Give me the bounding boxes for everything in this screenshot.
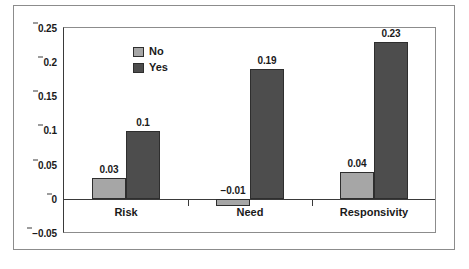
y-axis-tick-1: 0.2	[43, 57, 64, 68]
y-axis-tick-mark	[33, 160, 38, 161]
bar-value-responsivity-yes: 0.23	[381, 28, 400, 39]
bar-need-no[interactable]	[216, 199, 250, 206]
bar-responsivity-yes[interactable]	[374, 42, 408, 199]
bar-risk-yes[interactable]	[126, 131, 160, 199]
y-axis-tick-5: 0	[52, 194, 64, 205]
category-label-responsivity: Responsivity	[340, 206, 408, 218]
y-axis-tick-mark	[33, 91, 38, 92]
y-axis-tick-mark	[38, 125, 43, 126]
figure: 0.25 0.2 0.15 0.1 0.05 0 −0.05	[0, 0, 469, 269]
y-axis-tick-4: 0.05	[38, 160, 64, 171]
bar-value-risk-no: 0.03	[99, 164, 118, 175]
bar-value-need-yes: 0.19	[257, 55, 276, 66]
y-axis-tick-label: 0.2	[43, 57, 57, 68]
y-axis-tick-2: 0.15	[38, 91, 64, 102]
y-axis-tick-3: 0.1	[43, 125, 64, 136]
y-axis-tick-6: −0.05	[32, 228, 64, 239]
category-label-need: Need	[237, 206, 264, 218]
x-axis-separator-tick	[188, 199, 189, 206]
y-axis-tick-mark	[33, 23, 38, 24]
legend-item-yes: Yes	[133, 61, 168, 74]
legend-item-no: No	[133, 45, 168, 58]
y-axis-tick-mark	[27, 228, 32, 229]
y-axis-tick-0: 0.25	[38, 23, 64, 34]
legend: No Yes	[133, 45, 168, 77]
y-axis-tick-label: 0.05	[38, 160, 57, 171]
bar-value-risk-yes: 0.1	[136, 117, 150, 128]
bar-value-responsivity-no: 0.04	[347, 158, 366, 169]
bar-risk-no[interactable]	[92, 178, 126, 199]
legend-swatch-yes-icon	[133, 63, 144, 73]
bar-value-need-no: −0.01	[221, 185, 246, 196]
y-axis-tick-mark	[38, 57, 43, 58]
y-axis-tick-label: 0	[52, 194, 57, 205]
legend-label-no: No	[149, 46, 164, 57]
plot-area: 0.25 0.2 0.15 0.1 0.05 0 −0.05	[63, 27, 436, 233]
category-label-risk: Risk	[114, 206, 137, 218]
y-axis-tick-mark	[47, 194, 52, 195]
y-axis-tick-label: 0.25	[38, 23, 57, 34]
legend-swatch-no-icon	[133, 47, 144, 57]
y-axis-tick-label: 0.15	[38, 91, 57, 102]
y-axis-tick-label: 0.1	[43, 125, 57, 136]
x-axis-separator-tick	[312, 199, 313, 206]
y-axis-tick-label: −0.05	[32, 228, 57, 239]
bar-need-yes[interactable]	[250, 69, 284, 199]
legend-label-yes: Yes	[149, 62, 168, 73]
bar-responsivity-no[interactable]	[340, 172, 374, 199]
